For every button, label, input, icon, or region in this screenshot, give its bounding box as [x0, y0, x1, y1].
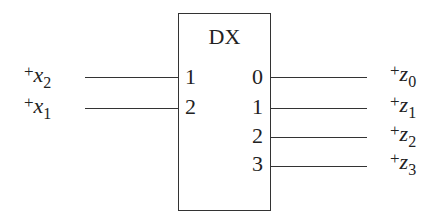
output-wire-z3 — [271, 166, 367, 167]
output-label-z3: +z3 — [390, 148, 416, 181]
output-label-z0: +z0 — [390, 60, 416, 93]
output-wire-z2 — [271, 137, 367, 138]
input-pin-2: 2 — [185, 96, 196, 118]
input-pin-1: 1 — [185, 66, 196, 88]
output-wire-z1 — [271, 108, 367, 109]
input-wire-x1 — [85, 108, 178, 109]
output-pin-2: 2 — [252, 125, 263, 147]
input-wire-x2 — [85, 77, 178, 78]
input-label-x1: +x1 — [24, 92, 51, 125]
output-wire-z0 — [271, 77, 367, 78]
input-label-x2: +x2 — [24, 61, 51, 94]
output-pin-3: 3 — [252, 153, 263, 175]
output-pin-1: 1 — [252, 96, 263, 118]
block-label: DX — [178, 24, 271, 50]
output-pin-0: 0 — [252, 66, 263, 88]
